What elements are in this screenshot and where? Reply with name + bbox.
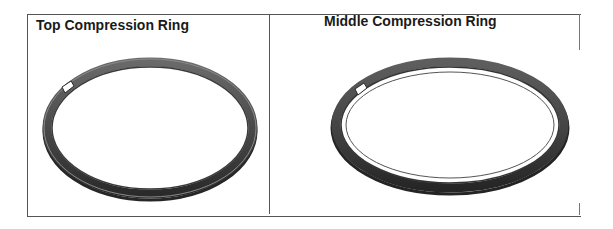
middle-compression-ring-title: Middle Compression Ring bbox=[324, 13, 497, 29]
top-compression-ring-title: Top Compression Ring bbox=[36, 17, 189, 33]
top-compression-ring-image bbox=[40, 55, 260, 205]
table-right-border-bottom bbox=[579, 203, 580, 215]
middle-compression-ring-image bbox=[328, 55, 578, 200]
table-right-border-top bbox=[579, 14, 580, 50]
column-divider bbox=[269, 14, 270, 214]
